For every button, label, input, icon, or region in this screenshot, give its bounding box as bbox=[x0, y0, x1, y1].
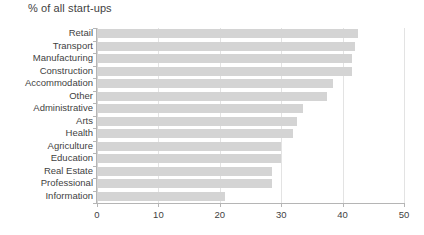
x-axis-tick-label: 20 bbox=[215, 209, 226, 220]
category-label: Professional bbox=[0, 177, 93, 190]
category-label: Transport bbox=[0, 40, 93, 53]
category-tick bbox=[93, 91, 97, 92]
bar-row bbox=[97, 78, 404, 91]
bar bbox=[97, 117, 297, 126]
bar-row bbox=[97, 53, 404, 66]
bar-row bbox=[97, 103, 404, 116]
x-axis-tick-label: 10 bbox=[153, 209, 164, 220]
category-tick bbox=[93, 178, 97, 179]
category-label: Retail bbox=[0, 27, 93, 40]
category-tick bbox=[93, 128, 97, 129]
x-axis-tick bbox=[404, 203, 405, 207]
category-label: Education bbox=[0, 152, 93, 165]
bar-row bbox=[97, 128, 404, 141]
category-label: Arts bbox=[0, 115, 93, 128]
category-label: Accommodation bbox=[0, 77, 93, 90]
category-tick bbox=[93, 103, 97, 104]
category-tick bbox=[93, 53, 97, 54]
bar-row bbox=[97, 28, 404, 41]
bar-row bbox=[97, 191, 404, 204]
x-axis-tick bbox=[220, 203, 221, 207]
bar-row bbox=[97, 153, 404, 166]
value-axis-line bbox=[97, 203, 405, 204]
bar bbox=[97, 179, 272, 188]
category-label: Other bbox=[0, 90, 93, 103]
bar bbox=[97, 29, 358, 38]
category-label: Administrative bbox=[0, 102, 93, 115]
x-axis-tick-label: 0 bbox=[94, 209, 99, 220]
bar bbox=[97, 67, 352, 76]
bar bbox=[97, 92, 327, 101]
category-tick bbox=[93, 166, 97, 167]
bar bbox=[97, 54, 352, 63]
x-axis-tick-label: 50 bbox=[399, 209, 410, 220]
bar bbox=[97, 79, 333, 88]
bar-chart: % of all start-ups RetailTransportManufa… bbox=[0, 0, 424, 235]
category-tick bbox=[93, 153, 97, 154]
bar bbox=[97, 42, 355, 51]
x-axis-tick bbox=[158, 203, 159, 207]
x-axis-tick bbox=[281, 203, 282, 207]
bar-row bbox=[97, 41, 404, 54]
bar bbox=[97, 167, 272, 176]
x-axis-tick bbox=[343, 203, 344, 207]
x-axis-tick bbox=[97, 203, 98, 207]
bar-row bbox=[97, 141, 404, 154]
category-label: Information bbox=[0, 190, 93, 203]
chart-title: % of all start-ups bbox=[28, 2, 112, 14]
bar-row bbox=[97, 66, 404, 79]
plot-area bbox=[97, 28, 404, 203]
y-axis-category-labels: RetailTransportManufacturingConstruction… bbox=[0, 28, 93, 203]
bar-row bbox=[97, 91, 404, 104]
x-axis-tick-label: 30 bbox=[276, 209, 287, 220]
category-tick bbox=[93, 141, 97, 142]
bar bbox=[97, 104, 303, 113]
category-label: Manufacturing bbox=[0, 52, 93, 65]
x-axis-tick-label: 40 bbox=[337, 209, 348, 220]
category-tick bbox=[93, 191, 97, 192]
category-label: Health bbox=[0, 127, 93, 140]
category-tick bbox=[93, 66, 97, 67]
bar bbox=[97, 154, 281, 163]
bar bbox=[97, 192, 225, 201]
bar-row bbox=[97, 178, 404, 191]
bar-row bbox=[97, 116, 404, 129]
gridline-50 bbox=[404, 28, 405, 203]
category-label: Construction bbox=[0, 65, 93, 78]
bar-row bbox=[97, 166, 404, 179]
bar bbox=[97, 142, 281, 151]
category-tick bbox=[93, 78, 97, 79]
category-label: Real Estate bbox=[0, 165, 93, 178]
category-tick bbox=[93, 116, 97, 117]
bar bbox=[97, 129, 293, 138]
category-label: Agriculture bbox=[0, 140, 93, 153]
category-tick bbox=[93, 41, 97, 42]
category-tick bbox=[93, 28, 97, 29]
